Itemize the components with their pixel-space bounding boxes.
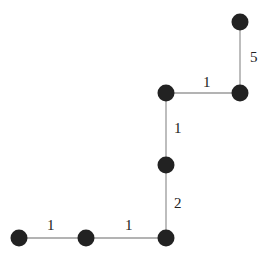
graph-node <box>158 230 175 247</box>
edge-weight-label: 1 <box>125 217 133 233</box>
edge-weight-label: 2 <box>174 195 182 211</box>
edge-weight-label: 1 <box>203 74 211 90</box>
graph-node <box>232 14 249 31</box>
edge-weight-label: 1 <box>174 120 182 136</box>
graph-node <box>158 157 175 174</box>
graph-node <box>78 230 95 247</box>
graph-node <box>158 85 175 102</box>
graph-node <box>11 230 28 247</box>
edge-weight-label: 5 <box>250 49 258 65</box>
graph-diagram: 511211 <box>0 0 270 259</box>
edges-group <box>19 22 240 238</box>
graph-node <box>232 85 249 102</box>
graph-svg: 511211 <box>0 0 270 259</box>
edge-weight-label: 1 <box>47 217 55 233</box>
edge-labels-group: 511211 <box>47 49 258 233</box>
nodes-group <box>11 14 249 247</box>
